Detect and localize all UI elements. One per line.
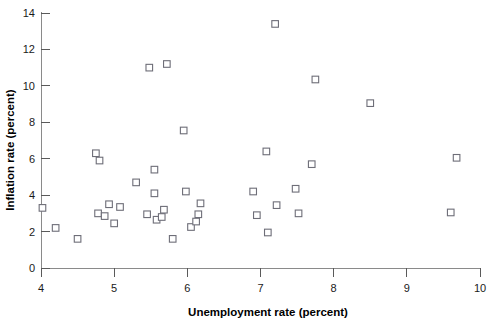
x-tick-label-7: 7 [257, 282, 263, 294]
data-point [96, 157, 103, 164]
axes [41, 12, 480, 268]
data-point [95, 210, 102, 217]
data-point [272, 21, 279, 28]
data-point [164, 61, 171, 68]
chart-canvas: 0246810121445678910 Unemployment rate (p… [0, 0, 497, 327]
data-point [146, 64, 153, 71]
y-axis-title: Inflation rate (percent) [4, 89, 16, 211]
data-point [151, 190, 158, 197]
x-tick-label-6: 6 [184, 282, 190, 294]
data-point [169, 236, 176, 243]
x-tick-label-4: 4 [38, 282, 44, 294]
data-point [254, 212, 261, 219]
data-point [273, 202, 280, 209]
y-tick-label-6: 6 [29, 153, 35, 165]
data-point [453, 155, 460, 162]
data-point [52, 225, 59, 232]
data-point [93, 150, 100, 157]
data-point [106, 201, 113, 208]
scatter-chart-figure: 0246810121445678910 Unemployment rate (p… [0, 0, 497, 327]
y-tick-label-14: 14 [23, 7, 35, 19]
data-point [265, 229, 272, 236]
data-point [183, 188, 190, 195]
x-tick-label-8: 8 [331, 282, 337, 294]
y-tick-label-2: 2 [29, 226, 35, 238]
data-point [74, 236, 81, 243]
data-point [151, 166, 158, 173]
data-point [295, 210, 302, 217]
data-point [158, 214, 165, 221]
data-point [312, 76, 319, 83]
data-point [250, 188, 257, 195]
x-tick-label-10: 10 [474, 282, 486, 294]
data-point [195, 211, 202, 218]
y-tick-label-8: 8 [29, 116, 35, 128]
data-point [161, 206, 168, 213]
x-tick-label-9: 9 [404, 282, 410, 294]
data-point [193, 218, 200, 225]
data-point [101, 213, 108, 220]
data-points [39, 21, 460, 243]
data-point [39, 205, 46, 212]
data-point [133, 179, 140, 186]
data-point [197, 200, 204, 207]
data-point [117, 204, 124, 211]
data-point [447, 209, 454, 216]
x-tick-label-5: 5 [111, 282, 117, 294]
y-tick-label-10: 10 [23, 80, 35, 92]
data-point [263, 148, 270, 155]
y-tick-label-0: 0 [29, 262, 35, 274]
tick-marks [41, 13, 480, 277]
data-point [180, 127, 187, 134]
y-tick-label-12: 12 [23, 43, 35, 55]
data-point [292, 185, 299, 192]
data-point [367, 100, 374, 107]
x-axis-title: Unemployment rate (percent) [188, 306, 348, 318]
data-point [308, 161, 315, 168]
data-point [144, 211, 151, 218]
y-tick-label-4: 4 [29, 189, 35, 201]
data-point [111, 220, 118, 227]
